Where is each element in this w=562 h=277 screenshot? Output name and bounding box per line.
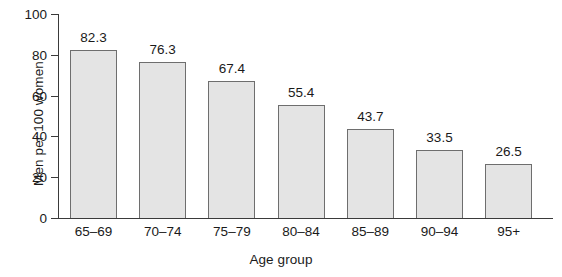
x-axis-category-label: 95+ (469, 224, 548, 239)
y-axis-tick-label: 80 (0, 47, 47, 62)
bar-value-label: 82.3 (56, 30, 131, 45)
y-axis-tick (51, 14, 58, 15)
bar-value-label: 33.5 (402, 130, 477, 145)
bar-value-label: 55.4 (264, 85, 339, 100)
x-axis-line (58, 218, 553, 219)
bar-value-label: 43.7 (333, 109, 408, 124)
bar-value-label: 76.3 (125, 42, 200, 57)
y-axis-tick-label: 40 (0, 129, 47, 144)
x-axis-category-label: 80–84 (262, 224, 341, 239)
bar (139, 62, 186, 218)
y-axis-tick (51, 177, 58, 178)
bar (278, 105, 325, 218)
bar (485, 164, 532, 218)
y-axis-tick (51, 136, 58, 137)
x-axis-category-label: 90–94 (400, 224, 479, 239)
x-axis-category-label: 75–79 (192, 224, 271, 239)
bar (416, 150, 463, 218)
y-axis-tick (51, 218, 58, 219)
bar (208, 81, 255, 218)
bar (347, 129, 394, 218)
bar-value-label: 67.4 (194, 61, 269, 76)
y-axis-tick (51, 96, 58, 97)
bar (70, 50, 117, 218)
bar-chart: Men per 100 women 020406080100 82.365–69… (0, 0, 562, 277)
y-axis-tick-label: 20 (0, 170, 47, 185)
y-axis-tick-label: 0 (0, 211, 47, 226)
y-axis-tick-label: 60 (0, 88, 47, 103)
bar-value-label: 26.5 (471, 144, 546, 159)
y-axis-tick (51, 55, 58, 56)
x-axis-category-label: 70–74 (123, 224, 202, 239)
x-axis-category-label: 65–69 (54, 224, 133, 239)
x-axis-category-label: 85–89 (331, 224, 410, 239)
x-axis-title: Age group (0, 252, 562, 267)
y-axis-tick-label: 100 (0, 7, 47, 22)
